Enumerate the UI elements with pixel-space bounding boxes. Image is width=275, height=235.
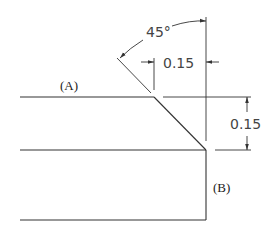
vertical-dim-label: 0.15 [230, 116, 261, 132]
horizontal-dimension: 0.15 [141, 55, 219, 71]
vertical-dimension: 0.15 [230, 97, 261, 150]
angle-arc-right [172, 21, 206, 26]
chamfer-drawing: 0.15 0.15 45° (A) (B) [0, 0, 275, 235]
chamfer-edge [154, 97, 206, 150]
chamfer-extension-line [117, 58, 151, 93]
edge-b-label: (B) [213, 180, 230, 195]
angle-dimension: 45° [120, 21, 206, 58]
edge-a-label: (A) [60, 78, 78, 93]
part-outline [20, 97, 206, 220]
angle-arc-left [120, 40, 143, 58]
angle-label: 45° [146, 24, 171, 40]
horizontal-dim-label: 0.15 [163, 55, 194, 71]
